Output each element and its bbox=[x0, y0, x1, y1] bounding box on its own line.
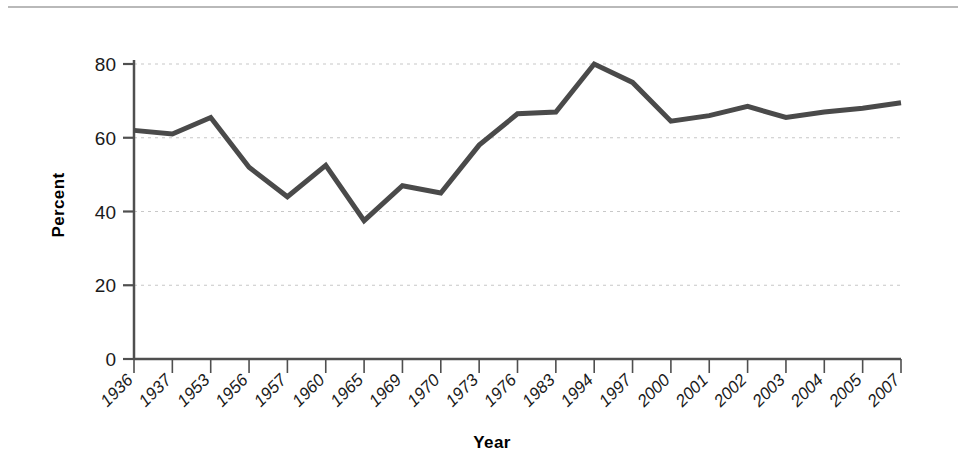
x-tick-label-2001: 2001 bbox=[671, 370, 712, 411]
x-tick-label-1957: 1957 bbox=[250, 370, 291, 411]
x-tick-group: 1936193719531956195719601965196919701973… bbox=[97, 359, 905, 411]
y-tick-label-80: 80 bbox=[95, 54, 116, 75]
y-tick-label-0: 0 bbox=[105, 349, 116, 370]
x-tick-label-2007: 2007 bbox=[863, 370, 904, 411]
data-series-line bbox=[134, 64, 901, 221]
x-tick-label-1969: 1969 bbox=[365, 370, 406, 411]
chart-plot-svg: 020406080 193619371953195619571960196519… bbox=[0, 0, 966, 459]
x-tick-label-1953: 1953 bbox=[173, 370, 214, 411]
x-tick-label-2003: 2003 bbox=[748, 370, 789, 411]
x-tick-label-2004: 2004 bbox=[786, 370, 827, 411]
x-tick-label-1936: 1936 bbox=[97, 370, 138, 411]
x-tick-label-1994: 1994 bbox=[557, 370, 597, 410]
x-tick-label-1997: 1997 bbox=[595, 370, 636, 411]
gridlines-group bbox=[134, 64, 901, 285]
x-axis-title: Year bbox=[473, 433, 511, 452]
y-tick-group: 020406080 bbox=[95, 54, 134, 370]
x-tick-label-2000: 2000 bbox=[633, 370, 674, 411]
x-tick-label-1983: 1983 bbox=[518, 370, 559, 411]
line-chart: 020406080 193619371953195619571960196519… bbox=[0, 0, 966, 459]
y-axis-title: Percent bbox=[49, 172, 68, 237]
x-tick-label-1965: 1965 bbox=[327, 370, 368, 411]
x-tick-label-1973: 1973 bbox=[442, 370, 483, 411]
y-tick-label-60: 60 bbox=[95, 128, 116, 149]
x-tick-label-2005: 2005 bbox=[825, 370, 866, 411]
x-tick-label-1956: 1956 bbox=[212, 370, 253, 411]
y-tick-label-20: 20 bbox=[95, 275, 116, 296]
x-tick-label-1937: 1937 bbox=[135, 370, 176, 411]
x-tick-label-1976: 1976 bbox=[480, 370, 521, 411]
x-tick-label-1970: 1970 bbox=[403, 370, 444, 411]
x-tick-label-1960: 1960 bbox=[288, 370, 329, 411]
figure-container: 020406080 193619371953195619571960196519… bbox=[0, 0, 966, 459]
y-tick-label-40: 40 bbox=[95, 202, 116, 223]
x-tick-label-2002: 2002 bbox=[710, 370, 751, 411]
